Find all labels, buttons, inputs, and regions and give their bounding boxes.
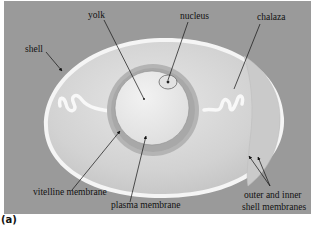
label-nucleus: nucleus bbox=[180, 11, 209, 21]
label-chalaza: chalaza bbox=[257, 12, 286, 22]
label-shell-membranes-line1: outer and inner bbox=[244, 190, 302, 200]
egg-diagram: yolk nucleus chalaza shell vitelline mem… bbox=[0, 0, 319, 229]
yolk bbox=[107, 64, 199, 156]
label-shell-membranes-line2: shell membranes bbox=[242, 202, 306, 212]
label-yolk: yolk bbox=[88, 10, 105, 20]
label-plasma-membrane: plasma membrane bbox=[111, 200, 180, 210]
panel-label: (a) bbox=[1, 214, 17, 225]
label-shell: shell bbox=[25, 44, 43, 54]
nucleus bbox=[159, 75, 177, 89]
label-vitelline-membrane: vitelline membrane bbox=[33, 187, 107, 197]
